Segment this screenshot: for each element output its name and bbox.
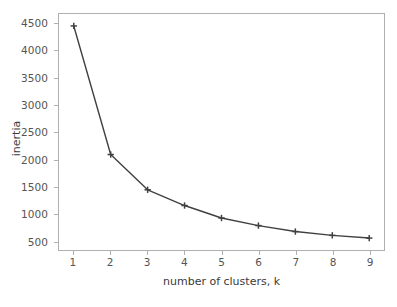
- data-point-marker: [71, 23, 77, 29]
- x-tick-mark: [110, 251, 111, 255]
- x-axis-label: number of clusters, k: [58, 275, 385, 288]
- y-tick-label: 2000: [21, 154, 48, 166]
- x-tick-mark: [73, 251, 74, 255]
- inertia-line: [74, 26, 369, 238]
- elbow-plot-figure: 50010001500200025003000350040004500 iner…: [0, 0, 397, 307]
- y-tick-label: 3000: [21, 99, 48, 111]
- y-axis-label: inertia: [10, 79, 23, 199]
- y-tick-label: 1500: [21, 181, 48, 193]
- y-tick-label: 1000: [21, 208, 48, 220]
- y-tick-label: 2500: [21, 126, 48, 138]
- x-tick-label: 9: [367, 256, 374, 268]
- y-tick-label: 500: [28, 236, 48, 248]
- data-point-marker: [218, 215, 224, 221]
- data-point-marker: [329, 232, 335, 238]
- x-tick-mark: [333, 251, 334, 255]
- y-tick-label: 4500: [21, 17, 48, 29]
- x-tick-label: 6: [255, 256, 262, 268]
- x-tick-label: 8: [330, 256, 337, 268]
- data-point-marker: [255, 222, 261, 228]
- x-tick-label: 4: [181, 256, 188, 268]
- x-tick-label: 3: [144, 256, 151, 268]
- x-tick-mark: [259, 251, 260, 255]
- data-point-marker: [292, 228, 298, 234]
- x-tick-mark: [147, 251, 148, 255]
- x-tick-mark: [296, 251, 297, 255]
- x-tick-label: 1: [70, 256, 77, 268]
- inertia-series: [59, 14, 384, 250]
- x-tick-label: 5: [218, 256, 225, 268]
- y-tick-label: 3500: [21, 72, 48, 84]
- data-point-marker: [181, 202, 187, 208]
- y-axis-tick-labels: 50010001500200025003000350040004500: [0, 0, 48, 307]
- x-tick-mark: [184, 251, 185, 255]
- plot-area: [58, 13, 385, 251]
- x-tick-label: 7: [292, 256, 299, 268]
- x-tick-label: 2: [107, 256, 114, 268]
- data-point-marker: [366, 235, 372, 241]
- x-tick-mark: [370, 251, 371, 255]
- y-tick-label: 4000: [21, 44, 48, 56]
- x-tick-mark: [222, 251, 223, 255]
